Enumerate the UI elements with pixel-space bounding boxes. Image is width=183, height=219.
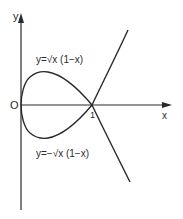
x-tick-label-1: 1: [90, 110, 95, 120]
upper-curve-equation: y=√x (1−x): [36, 54, 83, 65]
y-axis-arrow-icon: [18, 13, 24, 23]
x-axis-arrow-icon: [162, 102, 172, 108]
curve-diagram: y x O 1 y=√x (1−x) y=−√x (1−x): [0, 0, 183, 219]
lower-curve: [21, 105, 130, 182]
upper-curve: [21, 30, 128, 105]
lower-curve-equation: y=−√x (1−x): [36, 148, 89, 159]
x-axis-label: x: [162, 110, 167, 121]
y-axis-label: y: [13, 10, 19, 22]
origin-label: O: [10, 99, 19, 111]
